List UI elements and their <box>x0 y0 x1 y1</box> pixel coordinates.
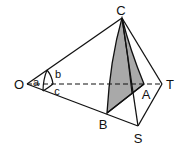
label-s: S <box>134 132 143 145</box>
label-a: A <box>142 88 151 101</box>
label-b: B <box>99 118 108 131</box>
edge-oc <box>27 18 122 84</box>
small-arc-c <box>43 84 53 91</box>
small-arc-b <box>47 70 53 84</box>
geometry-diagram: O C T A B S a b c <box>0 0 180 155</box>
label-angle-a: a <box>33 77 39 88</box>
label-c: C <box>116 4 125 17</box>
label-angle-b: b <box>55 69 61 80</box>
diagram-canvas <box>0 0 180 155</box>
label-angle-c: c <box>54 86 60 97</box>
label-t: T <box>166 78 174 91</box>
label-o: O <box>14 78 24 91</box>
